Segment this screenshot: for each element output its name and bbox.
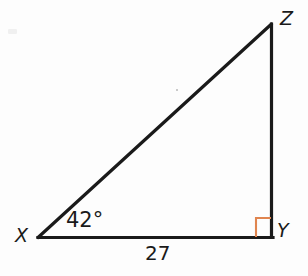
triangle-drawing — [0, 0, 308, 276]
scan-smudge-artifact — [8, 29, 17, 34]
triangle-figure: Z Y X 42° 27 — [0, 0, 308, 276]
vertex-label-x: X — [15, 226, 28, 245]
vertex-label-z: Z — [280, 9, 293, 28]
vertex-label-y: Y — [277, 221, 289, 240]
scan-speck-artifact — [176, 89, 178, 91]
side-xz-line — [38, 24, 272, 238]
side-length-label-xy: 27 — [145, 243, 170, 263]
right-angle-marker — [256, 218, 271, 237]
angle-measure-label-x: 42° — [66, 210, 103, 231]
